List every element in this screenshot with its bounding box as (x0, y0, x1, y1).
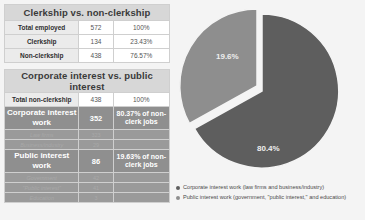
row-pct: 100% (113, 21, 169, 35)
legend-color-swatch-icon (176, 196, 180, 200)
subrow-spacer (113, 183, 169, 193)
pie-chart: 19.6% 80.4% (178, 2, 363, 180)
subrow-spacer (113, 130, 169, 140)
legend-label: Public interest work (government, "publi… (183, 195, 346, 201)
row-label: Public interest work (5, 150, 79, 173)
row-count: 438 (79, 49, 113, 63)
clerkship-table: Clerkship vs. non-clerkship Total employ… (4, 4, 170, 63)
table-row: Total employed 572 100% (5, 21, 170, 35)
row-count: 572 (79, 21, 113, 35)
subrow-label: Education (5, 193, 79, 203)
subrow-spacer (113, 193, 169, 203)
row-pct: 76.57% (113, 49, 169, 63)
row-label: Corporate interest work (5, 107, 79, 130)
interest-table: Corporate interest vs. public interest T… (4, 69, 170, 203)
row-label: Total non-clerkship (5, 93, 79, 107)
table-title-row: Corporate interest vs. public interest (5, 70, 170, 93)
clerkship-table-title: Clerkship vs. non-clerkship (5, 5, 170, 21)
subrow-label: Government (5, 173, 79, 183)
table-subrow: "Public interest" 41 (5, 183, 170, 193)
tables-panel: Clerkship vs. non-clerkship Total employ… (4, 4, 170, 203)
subrow-spacer (113, 140, 169, 150)
table-row: Clerkship 134 23.43% (5, 35, 170, 49)
table-title-row: Clerkship vs. non-clerkship (5, 5, 170, 21)
chart-legend: Corporate interest work (law firms and b… (176, 183, 364, 203)
pie-label-public: 19.6% (216, 52, 239, 61)
row-pct: 23.43% (113, 35, 169, 49)
row-count: 438 (79, 93, 113, 107)
subrow-label: Law firms (5, 130, 79, 140)
row-label: Non-clerkship (5, 49, 79, 63)
subrow-count: 3 (79, 193, 113, 203)
table-row: Total non-clerkship 438 100% (5, 93, 170, 107)
pie-label-corporate: 80.4% (257, 144, 280, 153)
row-count: 134 (79, 35, 113, 49)
subrow-count: 42 (79, 173, 113, 183)
legend-item-public[interactable]: Public interest work (government, "publi… (176, 193, 364, 202)
subrow-count: 29 (79, 140, 113, 150)
subrow-count: 323 (79, 130, 113, 140)
row-label: Total employed (5, 21, 79, 35)
row-count: 352 (79, 107, 113, 130)
subrow-label: Business/industry (5, 140, 79, 150)
row-pct: 19.63% of non-clerk jobs (113, 150, 169, 173)
subrow-spacer (113, 173, 169, 183)
interest-table-title: Corporate interest vs. public interest (5, 70, 170, 93)
table-subrow: Education 3 (5, 193, 170, 203)
row-count: 86 (79, 150, 113, 173)
row-pct: 80.37% of non-clerk jobs (113, 107, 169, 130)
table-row: Non-clerkship 438 76.57% (5, 49, 170, 63)
row-label: Clerkship (5, 35, 79, 49)
table-row-public: Public interest work 86 19.63% of non-cl… (5, 150, 170, 173)
legend-label: Corporate interest work (law firms and b… (183, 185, 324, 191)
legend-item-corporate[interactable]: Corporate interest work (law firms and b… (176, 183, 364, 192)
table-row-corporate: Corporate interest work 352 80.37% of no… (5, 107, 170, 130)
row-pct: 100% (113, 93, 169, 107)
table-subrow: Law firms 323 (5, 130, 170, 140)
table-subrow: Government 42 (5, 173, 170, 183)
infographic-root: Clerkship vs. non-clerkship Total employ… (0, 0, 365, 220)
subrow-label: "Public interest" (5, 183, 79, 193)
legend-color-swatch-icon (176, 186, 180, 190)
table-subrow: Business/industry 29 (5, 140, 170, 150)
pie-chart-svg: 19.6% 80.4% (178, 2, 363, 180)
subrow-count: 41 (79, 183, 113, 193)
